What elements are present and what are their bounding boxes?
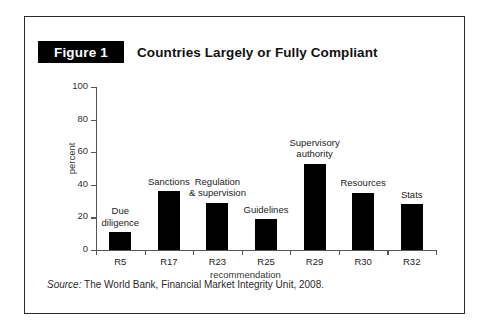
y-axis-tick: 40 xyxy=(91,185,96,186)
y-axis-tick: 80 xyxy=(91,120,96,121)
bar-annotation: Resources xyxy=(323,177,403,189)
source-note: Source: The World Bank, Financial Market… xyxy=(47,279,324,290)
bar-annotation: Stats xyxy=(372,189,452,201)
x-axis-tick xyxy=(96,250,97,255)
x-axis-category-label: R17 xyxy=(145,256,194,267)
x-axis-category-label: R32 xyxy=(387,256,436,267)
x-axis-category-label: R30 xyxy=(339,256,388,267)
x-axis-tick xyxy=(193,250,194,255)
x-axis-tick xyxy=(290,250,291,255)
bar xyxy=(109,232,131,250)
x-axis-tick xyxy=(339,250,340,255)
bar-annotation: Supervisory authority xyxy=(275,137,355,160)
y-axis-tick-label: 0 xyxy=(83,243,88,254)
y-axis-tick-label: 40 xyxy=(77,178,88,189)
x-axis-category-label: R25 xyxy=(242,256,291,267)
figure-panel: Figure 1 Countries Largely or Fully Comp… xyxy=(24,16,465,314)
bar xyxy=(255,219,277,250)
bar xyxy=(352,193,374,250)
x-axis-tick xyxy=(145,250,146,255)
x-axis-tick xyxy=(436,250,437,255)
y-axis-tick-label: 80 xyxy=(77,113,88,124)
source-value: The World Bank, Financial Market Integri… xyxy=(81,279,324,290)
y-axis-tick: 100 xyxy=(91,87,96,88)
bar-annotation: Guidelines xyxy=(226,204,306,216)
y-axis-tick-label: 60 xyxy=(77,145,88,156)
x-axis-category-label: R23 xyxy=(193,256,242,267)
x-axis-tick xyxy=(387,250,388,255)
y-axis-tick: 60 xyxy=(91,152,96,153)
y-axis-title: percent xyxy=(66,143,77,175)
bar-annotation: Regulation & supervision xyxy=(177,176,257,199)
x-axis-category-label: R29 xyxy=(290,256,339,267)
bar xyxy=(401,204,423,250)
bar-chart: percent recommendation 020406080100 R5R1… xyxy=(25,17,466,315)
bar-annotation: Due diligence xyxy=(80,205,160,228)
source-label: Source: xyxy=(47,279,81,290)
bar xyxy=(158,191,180,250)
x-axis-line xyxy=(96,250,436,251)
x-axis-category-label: R5 xyxy=(96,256,145,267)
x-axis-tick xyxy=(242,250,243,255)
y-axis-tick-label: 100 xyxy=(72,80,88,91)
